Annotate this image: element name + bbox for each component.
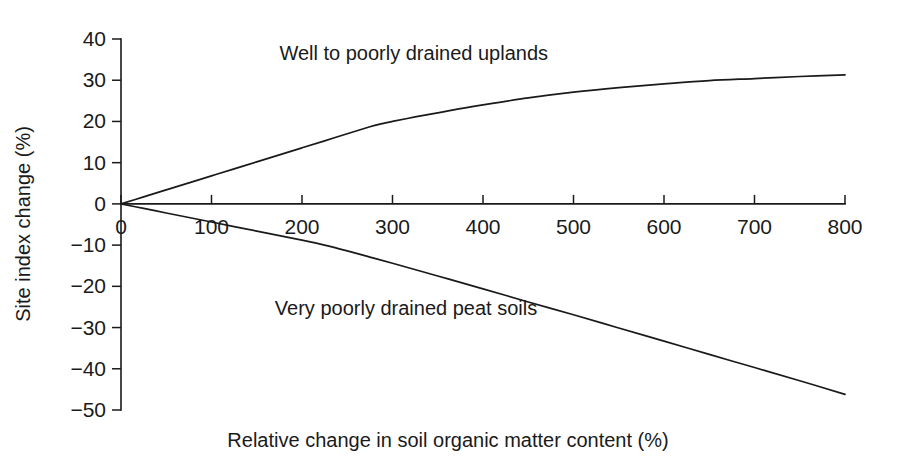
y-tick-label: −40 bbox=[70, 357, 106, 380]
series-label-lower: Very poorly drained peat soils bbox=[275, 297, 537, 319]
x-axis: 0100200300400500600700800 bbox=[115, 195, 862, 238]
x-axis-tick-labels: 0100200300400500600700800 bbox=[115, 215, 862, 238]
x-tick-label: 500 bbox=[556, 215, 591, 238]
y-tick-label: 20 bbox=[83, 109, 106, 132]
x-tick-label: 100 bbox=[194, 215, 229, 238]
x-tick-label: 0 bbox=[115, 215, 127, 238]
x-tick-label: 200 bbox=[284, 215, 319, 238]
chart-figure: 403020100−10−20−30−40−50 010020030040050… bbox=[0, 0, 897, 461]
y-tick-label: −50 bbox=[70, 398, 106, 421]
x-tick-label: 600 bbox=[646, 215, 681, 238]
y-tick-label: 0 bbox=[94, 192, 106, 215]
y-tick-label: 10 bbox=[83, 151, 106, 174]
line-chart-svg: 403020100−10−20−30−40−50 010020030040050… bbox=[0, 0, 897, 461]
x-tick-label: 700 bbox=[737, 215, 772, 238]
x-tick-label: 300 bbox=[375, 215, 410, 238]
y-tick-label: −20 bbox=[70, 274, 106, 297]
y-axis: 403020100−10−20−30−40−50 bbox=[70, 27, 121, 421]
y-axis-tick-labels: 403020100−10−20−30−40−50 bbox=[70, 27, 106, 421]
x-tick-label: 400 bbox=[465, 215, 500, 238]
x-axis-ticks bbox=[121, 195, 845, 204]
y-tick-label: −30 bbox=[70, 316, 106, 339]
y-axis-title: Site index change (%) bbox=[12, 126, 34, 322]
series-label-upper: Well to poorly drained uplands bbox=[279, 42, 548, 64]
series-line-well-to-poorly-drained-uplands bbox=[121, 75, 845, 204]
y-tick-label: −10 bbox=[70, 233, 106, 256]
x-tick-label: 800 bbox=[827, 215, 862, 238]
x-axis-title: Relative change in soil organic matter c… bbox=[227, 429, 668, 451]
y-tick-label: 40 bbox=[83, 27, 106, 50]
y-tick-label: 30 bbox=[83, 68, 106, 91]
